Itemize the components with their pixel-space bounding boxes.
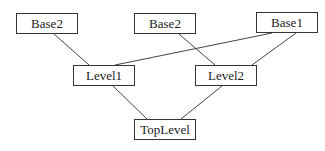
edge-base2-mid-to-level2 [179,34,215,65]
node-toplevel: TopLevel [134,119,196,140]
node-base1: Base1 [256,12,318,33]
node-level1: Level1 [73,65,135,86]
inheritance-diagram: Base2 Base2 Base1 Level1 Level2 TopLevel [0,0,325,151]
node-label: Level1 [86,68,122,84]
node-base2-left: Base2 [16,13,78,34]
edge-base2-left-to-level1 [54,34,89,65]
edge-level1-to-toplevel [113,86,147,119]
node-base2-mid: Base2 [134,13,196,34]
node-label: TopLevel [140,122,190,138]
node-label: Base2 [31,16,63,32]
edge-level2-to-toplevel [181,86,222,119]
node-label: Base1 [271,15,303,31]
edge-base1-to-level2 [252,33,296,65]
node-level2: Level2 [195,65,257,86]
edge-base1-to-level1 [115,33,272,65]
node-label: Base2 [149,16,181,32]
node-label: Level2 [208,68,244,84]
